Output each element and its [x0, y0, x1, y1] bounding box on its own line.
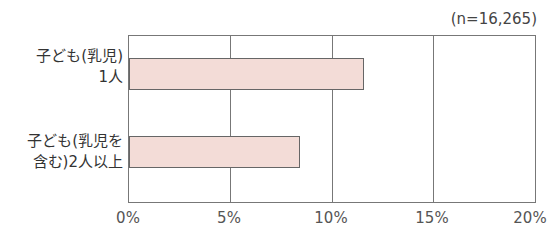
category-label-two-or-more-children: 子ども(乳児を 含む)2人以上	[27, 131, 123, 173]
bar-two-or-more-children	[129, 136, 300, 168]
x-tick-15: 15%	[415, 209, 448, 227]
x-tick-20: 20%	[513, 209, 546, 227]
category-label-one-child: 子ども(乳児) 1人	[36, 46, 123, 88]
x-tick-0: 0%	[116, 209, 140, 227]
sample-size-annotation: (n=16,265)	[451, 10, 537, 28]
x-tick-5: 5%	[217, 209, 241, 227]
plot-area	[128, 35, 536, 203]
x-tick-10: 10%	[314, 209, 347, 227]
bar-one-child	[129, 58, 364, 90]
gridline-15	[433, 36, 434, 202]
